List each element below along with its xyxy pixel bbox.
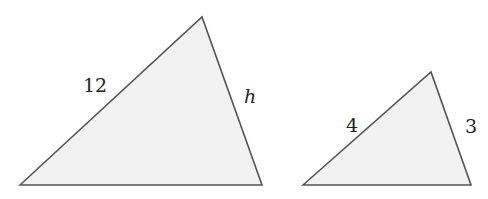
similar-triangles-diagram: 12 h 4 3	[0, 0, 488, 199]
small-triangle	[303, 72, 471, 185]
large-triangle	[20, 17, 262, 185]
small-triangle-right-side-label: 3	[465, 115, 477, 137]
large-triangle-left-side-label: 12	[83, 74, 107, 96]
small-triangle-left-side-label: 4	[346, 114, 358, 136]
large-triangle-right-side-label: h	[244, 85, 256, 107]
